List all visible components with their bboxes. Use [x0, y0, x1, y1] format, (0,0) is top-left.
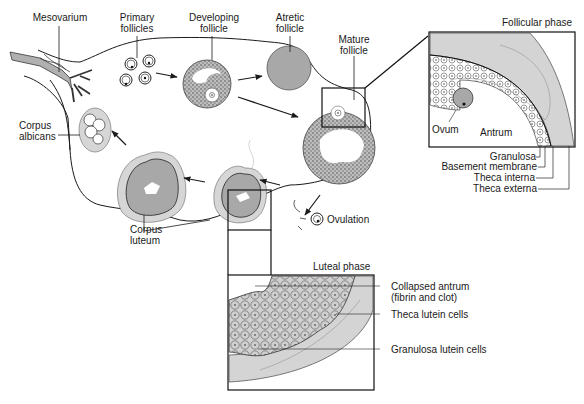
label-collapsed-antrum-line1: Collapsed antrum — [391, 281, 469, 292]
label-atretic-follicle: Atretic follicle — [270, 12, 310, 34]
label-corpus-albicans-line2: albicans — [19, 131, 56, 142]
label-corpus-luteum: Corpus luteum — [130, 224, 162, 246]
atretic-follicle — [267, 36, 311, 90]
label-collapsed-antrum-line2: (fibrin and clot) — [391, 292, 469, 303]
label-mature-follicle-line1: Mature — [334, 34, 374, 45]
developing-follicle — [183, 36, 231, 108]
label-primary-follicles: Primary follicles — [112, 12, 162, 34]
ovary-diagram — [0, 0, 584, 404]
luteal-phase-inset — [228, 230, 380, 390]
label-theca-lutein-cells: Theca lutein cells — [391, 309, 468, 320]
label-corpus-luteum-line2: luteum — [130, 235, 162, 246]
ovulation — [294, 200, 323, 230]
mesovarium-vessels — [10, 26, 92, 102]
corpus-luteum-early — [214, 140, 271, 230]
luteal-phase-title: Luteal phase — [313, 261, 370, 272]
label-primary-follicles-line1: Primary — [112, 12, 162, 23]
follicular-phase-title: Follicular phase — [502, 17, 572, 28]
label-mature-follicle: Mature follicle — [334, 34, 374, 56]
label-corpus-albicans: Corpus albicans — [19, 120, 56, 142]
label-developing-follicle: Developing follicle — [186, 12, 242, 34]
label-atretic-follicle-line1: Atretic — [270, 12, 310, 23]
label-theca-interna: Theca interna — [400, 172, 535, 183]
label-ovum: Ovum — [432, 124, 459, 135]
label-mature-follicle-line2: follicle — [334, 45, 374, 56]
label-mesovarium: Mesovarium — [30, 12, 90, 23]
label-ovulation: Ovulation — [327, 214, 369, 225]
label-developing-follicle-line2: follicle — [186, 23, 242, 34]
label-theca-externa: Theca externa — [400, 183, 537, 194]
label-basement-membrane: Basement membrane — [400, 161, 537, 172]
label-antrum: Antrum — [480, 127, 512, 138]
label-corpus-luteum-line1: Corpus — [130, 224, 162, 235]
label-collapsed-antrum: Collapsed antrum (fibrin and clot) — [391, 281, 469, 303]
label-developing-follicle-line1: Developing — [186, 12, 242, 23]
label-corpus-albicans-line1: Corpus — [19, 120, 56, 131]
corpus-luteum-mature — [117, 152, 185, 222]
label-granulosa-lutein-cells: Granulosa lutein cells — [391, 344, 487, 355]
label-primary-follicles-line2: follicles — [112, 23, 162, 34]
label-atretic-follicle-line2: follicle — [270, 23, 310, 34]
